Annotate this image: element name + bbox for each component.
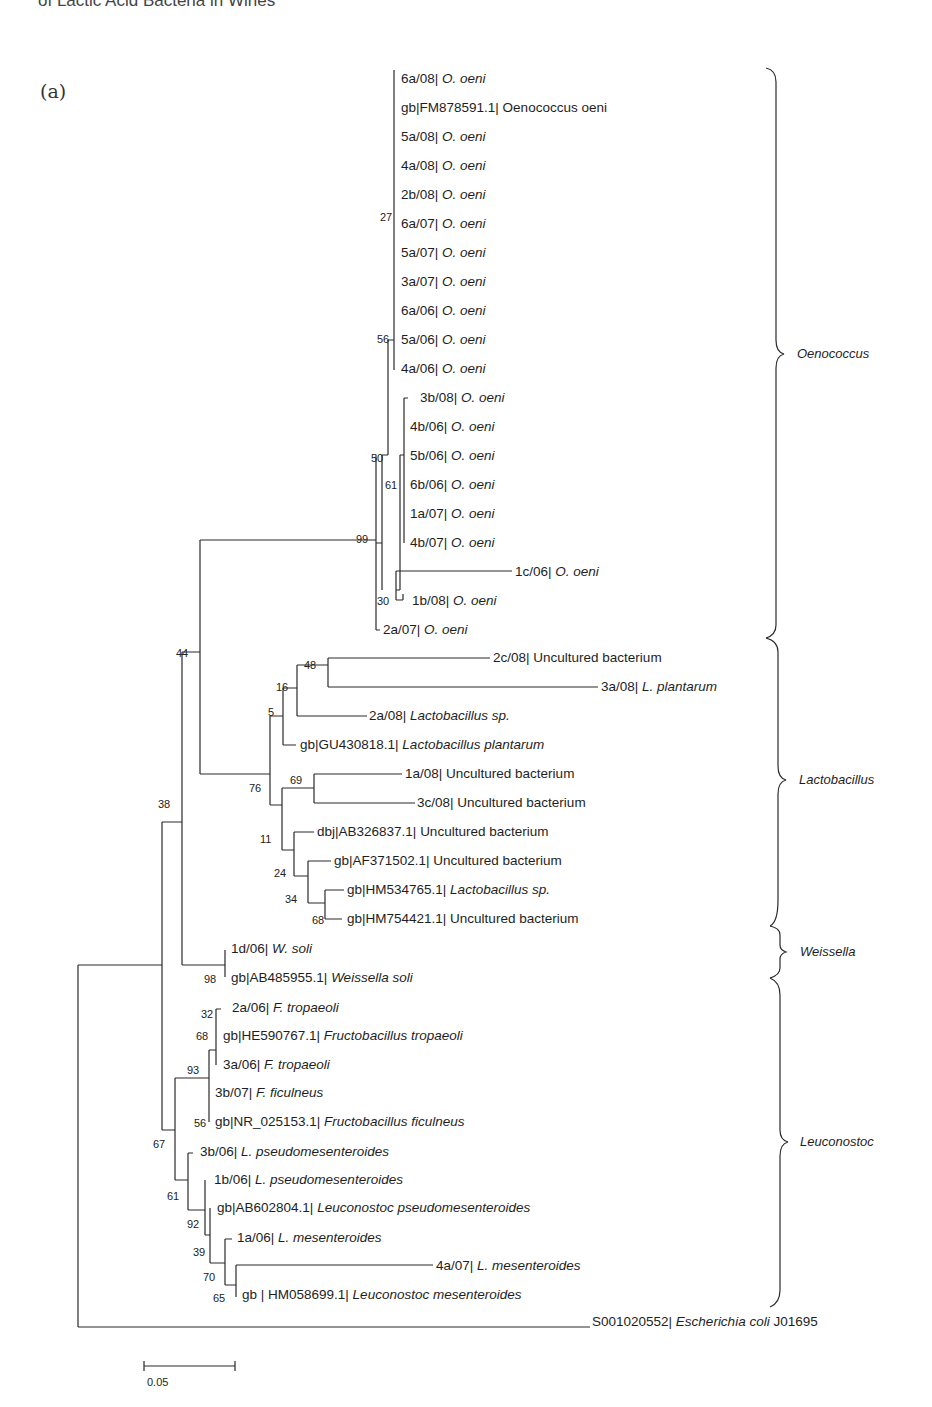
tip-label: 1c/06| O. oeni [515, 564, 599, 580]
tip-label: 1a/06| L. mesenteroides [237, 1230, 382, 1246]
tip-label: gb|AB485955.1| Weissella soli [231, 970, 413, 986]
tip-label: 5b/06| O. oeni [410, 448, 495, 464]
bootstrap-value: 32 [201, 1008, 213, 1020]
phylogenetic-tree [0, 0, 932, 1407]
tip-label: 2a/07| O. oeni [383, 622, 468, 638]
tip-label: dbj|AB326837.1| Uncultured bacterium [317, 824, 548, 840]
bootstrap-value: 38 [158, 798, 170, 810]
tip-label: gb|HM534765.1| Lactobacillus sp. [347, 882, 550, 898]
tip-label: gb|HE590767.1| Fructobacillus tropaeoli [223, 1028, 463, 1044]
bootstrap-value: 27 [380, 211, 392, 223]
bootstrap-value: 5 [268, 706, 274, 718]
bootstrap-value: 50 [371, 452, 383, 464]
bootstrap-value: 61 [167, 1190, 179, 1202]
clade-label-leuconostoc: Leuconostoc [800, 1134, 874, 1149]
tip-label: 5a/06| O. oeni [401, 332, 486, 348]
tip-label: gb|GU430818.1| Lactobacillus plantarum [300, 737, 544, 753]
tip-label: 4b/06| O. oeni [410, 419, 495, 435]
tip-label: 2b/08| O. oeni [401, 187, 486, 203]
bootstrap-value: 30 [377, 595, 389, 607]
tip-label: 4a/06| O. oeni [401, 361, 486, 377]
tip-label: gb|HM754421.1| Uncultured bacterium [347, 911, 578, 927]
bootstrap-value: 69 [290, 774, 302, 786]
bootstrap-value: 56 [377, 333, 389, 345]
bootstrap-value: 92 [187, 1218, 199, 1230]
tip-label: 1b/08| O. oeni [412, 593, 497, 609]
tip-label: 3a/08| L. plantarum [601, 679, 717, 695]
bootstrap-value: 39 [193, 1246, 205, 1258]
bootstrap-value: 11 [260, 833, 271, 845]
tip-label-outgroup: S001020552| Escherichia coli J01695 [592, 1314, 818, 1330]
bootstrap-value: 67 [153, 1138, 165, 1150]
tip-label: gb|FM878591.1| Oenococcus oeni [401, 100, 607, 116]
tip-label: gb|NR_025153.1| Fructobacillus ficulneus [215, 1114, 464, 1130]
scale-bar-label: 0.05 [147, 1376, 168, 1388]
tip-label: 1a/07| O. oeni [410, 506, 495, 522]
tip-label: 2c/08| Uncultured bacterium [493, 650, 662, 666]
tip-label: 3b/07| F. ficulneus [215, 1085, 323, 1101]
clade-label-lactobacillus: Lactobacillus [799, 772, 874, 787]
tip-label: 3b/06| L. pseudomesenteroides [200, 1144, 389, 1160]
tip-label: 3a/07| O. oeni [401, 274, 486, 290]
tip-label: 6a/06| O. oeni [401, 303, 486, 319]
bootstrap-value: 98 [204, 973, 216, 985]
bootstrap-value: 56 [194, 1117, 206, 1129]
tip-label: 6a/07| O. oeni [401, 216, 486, 232]
bootstrap-value: 68 [312, 914, 324, 926]
bootstrap-value: 16 [276, 681, 288, 693]
tip-label: gb|AF371502.1| Uncultured bacterium [334, 853, 562, 869]
tip-label: 5a/08| O. oeni [401, 129, 486, 145]
bootstrap-value: 76 [249, 782, 261, 794]
bootstrap-value: 48 [304, 659, 316, 671]
tip-label: 3c/08| Uncultured bacterium [417, 795, 586, 811]
tip-label: 5a/07| O. oeni [401, 245, 486, 261]
bootstrap-value: 44 [176, 647, 188, 659]
bootstrap-value: 70 [203, 1271, 215, 1283]
tip-label: 2a/08| Lactobacillus sp. [369, 708, 510, 724]
tip-label: 6b/06| O. oeni [410, 477, 495, 493]
tip-label: 3a/06| F. tropaeoli [223, 1057, 330, 1073]
bootstrap-value: 65 [213, 1292, 225, 1304]
bootstrap-value: 68 [196, 1030, 208, 1042]
tip-label: 1d/06| W. soli [231, 941, 312, 957]
tip-label: 1b/06| L. pseudomesenteroides [214, 1172, 403, 1188]
tip-label: 4a/07| L. mesenteroides [436, 1258, 581, 1274]
tip-label: 4a/08| O. oeni [401, 158, 486, 174]
tip-label: gb|AB602804.1| Leuconostoc pseudomesente… [217, 1200, 530, 1216]
bootstrap-value: 99 [356, 533, 368, 545]
clade-label-oenococcus: Oenococcus [797, 346, 869, 361]
bootstrap-value: 24 [274, 867, 286, 879]
tip-label: gb | HM058699.1| Leuconostoc mesenteroid… [242, 1287, 521, 1303]
bootstrap-value: 34 [285, 893, 297, 905]
tip-label: 4b/07| O. oeni [410, 535, 495, 551]
tip-label: 2a/06| F. tropaeoli [232, 1000, 339, 1016]
tip-label: 6a/08| O. oeni [401, 71, 486, 87]
clade-label-weissella: Weissella [800, 944, 855, 959]
bootstrap-value: 93 [187, 1064, 199, 1076]
tip-label: 1a/08| Uncultured bacterium [405, 766, 574, 782]
bootstrap-value: 61 [385, 479, 397, 491]
tip-label: 3b/08| O. oeni [420, 390, 505, 406]
